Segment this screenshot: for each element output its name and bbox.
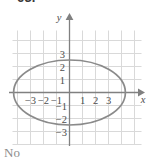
y-tick-pos1: 1 (60, 75, 65, 86)
problem-number-label: 63. (17, 0, 57, 5)
x-tick-labels: −3 −2 −1 1 2 3 (25, 95, 111, 106)
x-tick-neg2: −2 (38, 95, 49, 106)
ellipse-graph-figure: 63. (0, 0, 149, 164)
x-tick-pos1: 1 (80, 95, 85, 106)
answer-label: No (4, 146, 20, 160)
y-tick-neg2: −2 (56, 114, 67, 125)
x-tick-pos3: 3 (106, 95, 111, 106)
x-tick-pos2: 2 (93, 95, 98, 106)
x-axis-label: x (140, 94, 146, 105)
y-tick-pos2: 2 (60, 62, 65, 73)
y-tick-pos3: 3 (60, 49, 65, 60)
y-axis-label: y (56, 12, 62, 23)
axes (9, 20, 138, 146)
coordinate-plane-graph: y x −3 −2 −1 1 2 3 3 2 1 −1 −2 −3 (0, 10, 149, 146)
grid-lines (13, 31, 142, 145)
y-tick-neg1: −1 (56, 101, 67, 112)
y-tick-neg3: −3 (56, 127, 67, 138)
x-tick-neg3: −3 (25, 95, 36, 106)
y-axis-arrow (66, 13, 74, 20)
